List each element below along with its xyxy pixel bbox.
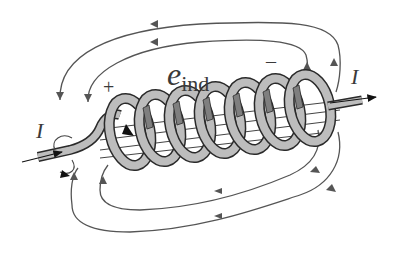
emf-symbol: e [167, 56, 181, 92]
inductor-diagram: eind + – I I [0, 0, 398, 257]
coil [103, 71, 336, 170]
diagram-canvas [0, 0, 398, 257]
wire-field-loop-arrow [60, 170, 70, 178]
right-lead-wire [328, 97, 376, 106]
minus-polarity-label: – [266, 50, 276, 73]
emf-subscript: ind [181, 71, 209, 96]
current-label-left: I [36, 118, 43, 144]
plus-polarity-label: + [103, 76, 114, 99]
current-label-right: I [351, 64, 358, 90]
emf-label: eind [167, 58, 209, 94]
